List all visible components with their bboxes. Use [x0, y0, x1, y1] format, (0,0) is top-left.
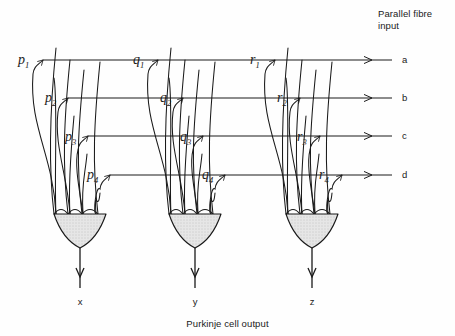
fibre-label-a: a: [402, 54, 407, 65]
dendrite-label-r4: r4: [319, 167, 329, 185]
parallel-fibre-input-title: Parallel fibre input: [378, 8, 432, 32]
dendrite-p2: [57, 98, 70, 214]
soma: [169, 214, 221, 248]
purkinje-cell-output-title: Purkinje cell output: [0, 318, 455, 330]
dendrite-label-p1: p1: [18, 52, 29, 70]
purkinje-cell-diagram: Parallel fibre input Purkinje cell outpu…: [0, 0, 455, 336]
diagram-canvas: [0, 0, 455, 336]
cell-x: [33, 48, 110, 288]
dendrite-label-r2: r2: [277, 90, 287, 108]
dendrite-label-p4: p4: [87, 167, 98, 185]
fibre-label-c: c: [402, 130, 407, 141]
dendrite-label-q1: q1: [133, 52, 144, 70]
fibre-label-b: b: [402, 92, 407, 103]
axon-label-y: y: [188, 296, 202, 307]
dendrite-label-p2: p2: [45, 90, 56, 108]
soma: [286, 214, 338, 248]
dendrite-label-q2: q2: [160, 90, 171, 108]
axon-label-x: x: [73, 296, 87, 307]
dendrite-r2: [289, 98, 302, 214]
cell-z: [265, 48, 342, 288]
dendrite-label-q3: q3: [180, 129, 191, 147]
soma: [54, 214, 106, 248]
cell-y: [148, 48, 225, 288]
fibre-label-d: d: [402, 169, 407, 180]
dendrite-q2: [172, 98, 185, 214]
dendrite-label-p3: p3: [65, 129, 76, 147]
dendrite-label-r1: r1: [250, 52, 260, 70]
dendrite-label-q4: q4: [202, 167, 213, 185]
dendrite-label-r3: r3: [297, 129, 307, 147]
purkinje-cell-group: [33, 48, 342, 288]
axon-label-z: z: [305, 296, 319, 307]
